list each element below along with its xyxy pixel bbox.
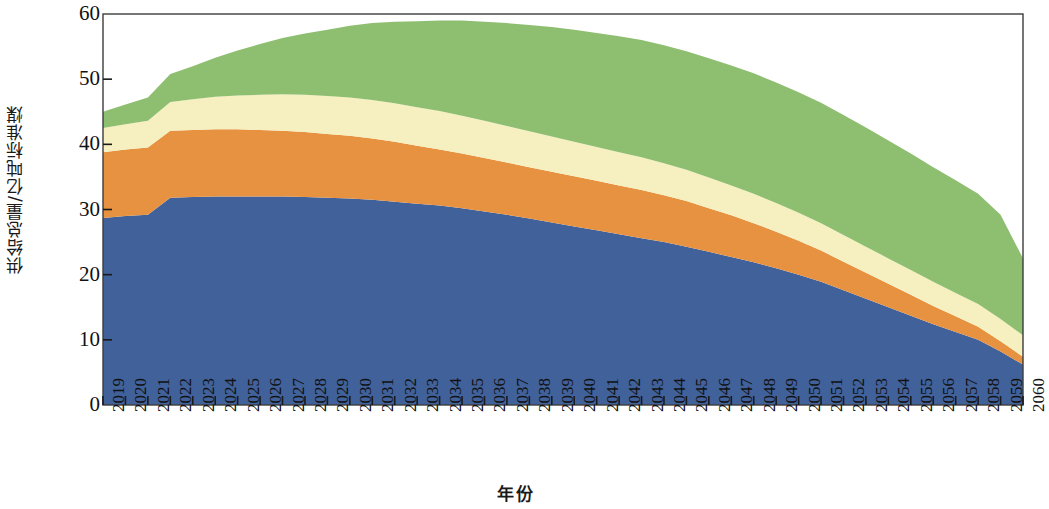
x-tick-label: 2025 — [244, 378, 264, 412]
x-tick-label: 2031 — [378, 378, 398, 412]
x-axis-title: 年份 — [0, 480, 1031, 505]
x-tick-label: 2026 — [266, 378, 286, 412]
x-tick-label: 2040 — [580, 378, 600, 412]
x-tick-label: 2036 — [490, 378, 510, 412]
x-tick-label: 2023 — [199, 378, 219, 412]
x-tick-label: 2034 — [446, 378, 466, 412]
x-tick-label: 2056 — [939, 378, 959, 412]
x-tick-label: 2044 — [670, 378, 690, 412]
x-tick-label: 2021 — [154, 378, 174, 412]
x-tick-label: 2048 — [760, 378, 780, 412]
x-tick-label: 2047 — [737, 378, 757, 412]
x-tick-label: 2019 — [109, 378, 129, 412]
x-tick-label: 2054 — [894, 378, 914, 412]
x-tick-label: 2052 — [849, 378, 869, 412]
x-tick-label: 2038 — [535, 378, 555, 412]
x-tick-label: 2024 — [221, 378, 241, 412]
x-tick-label: 2035 — [468, 378, 488, 412]
x-tick-label: 2051 — [827, 378, 847, 412]
x-tick-label: 2057 — [962, 378, 982, 412]
x-tick-label: 2059 — [1007, 378, 1027, 412]
x-tick-label: 2042 — [625, 378, 645, 412]
x-tick-label: 2046 — [715, 378, 735, 412]
x-tick-label: 2033 — [423, 378, 443, 412]
x-tick-label: 2050 — [805, 378, 825, 412]
x-tick-label: 2041 — [603, 378, 623, 412]
x-tick-label: 2020 — [131, 378, 151, 412]
x-tick-label: 2027 — [289, 378, 309, 412]
x-tick-label: 2045 — [692, 378, 712, 412]
x-tick-label: 2028 — [311, 378, 331, 412]
x-tick-label: 2039 — [558, 378, 578, 412]
x-tick-label: 2043 — [648, 378, 668, 412]
x-tick-label: 2060 — [1029, 378, 1049, 412]
x-tick-label: 2032 — [401, 378, 421, 412]
x-tick-label: 2037 — [513, 378, 533, 412]
area-series-group — [103, 21, 1023, 405]
x-tick-label: 2029 — [333, 378, 353, 412]
x-tick-label: 2055 — [917, 378, 937, 412]
x-tick-label: 2049 — [782, 378, 802, 412]
x-tick-label: 2030 — [356, 378, 376, 412]
x-tick-label: 2058 — [984, 378, 1004, 412]
x-tick-label: 2053 — [872, 378, 892, 412]
x-tick-label: 2022 — [176, 378, 196, 412]
